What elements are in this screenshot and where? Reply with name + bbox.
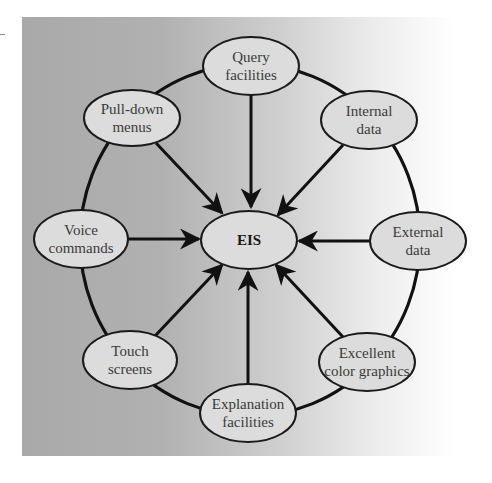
node-label-line: Query <box>232 49 270 65</box>
node-label-line: data <box>357 121 382 137</box>
node-ellipse <box>34 210 128 268</box>
node-ellipse <box>200 384 296 442</box>
node-pull-down-menus: Pull-downmenus <box>84 90 180 146</box>
node-label-line: Excellent <box>339 345 396 361</box>
node-explanation-facilities: Explanationfacilities <box>200 384 296 442</box>
arrow-internal-data-to-eis <box>278 145 343 215</box>
center-node: EIS <box>201 211 297 269</box>
page: QueryfacilitiesInternaldataExternaldataE… <box>0 0 492 483</box>
node-label-line: Explanation <box>212 396 285 412</box>
node-ellipse <box>370 212 466 270</box>
node-external-data: Externaldata <box>370 212 466 270</box>
node-ellipse <box>83 331 177 389</box>
node-touch-screens: Touchscreens <box>83 331 177 389</box>
node-label-line: color graphics <box>324 363 410 379</box>
eis-diagram: QueryfacilitiesInternaldataExternaldataE… <box>0 0 492 483</box>
node-ellipse <box>319 333 415 391</box>
eis-label: EIS <box>237 232 261 248</box>
node-label-line: screens <box>108 361 152 377</box>
node-ellipse <box>84 90 180 146</box>
node-label-line: Voice <box>64 222 98 238</box>
arrow-pull-down-menus-to-eis <box>156 143 222 213</box>
node-label-line: Internal <box>346 103 393 119</box>
node-ellipse <box>321 91 417 149</box>
node-ellipse <box>203 37 299 95</box>
arrow-touch-screens-to-eis <box>155 265 222 336</box>
node-voice-commands: Voicecommands <box>34 210 128 268</box>
node-internal-data: Internaldata <box>321 91 417 149</box>
node-label-line: Pull-down <box>101 101 164 117</box>
node-label-line: facilities <box>225 67 277 83</box>
node-label-line: menus <box>112 119 151 135</box>
node-label-line: facilities <box>222 414 274 430</box>
arrow-excellent-color-graphics-to-eis <box>276 265 343 337</box>
node-label-line: data <box>406 242 431 258</box>
node-label-line: External <box>393 224 444 240</box>
node-label-line: Touch <box>111 343 149 359</box>
node-label-line: commands <box>49 240 114 256</box>
node-query-facilities: Queryfacilities <box>203 37 299 95</box>
node-excellent-color-graphics: Excellentcolor graphics <box>319 333 415 391</box>
